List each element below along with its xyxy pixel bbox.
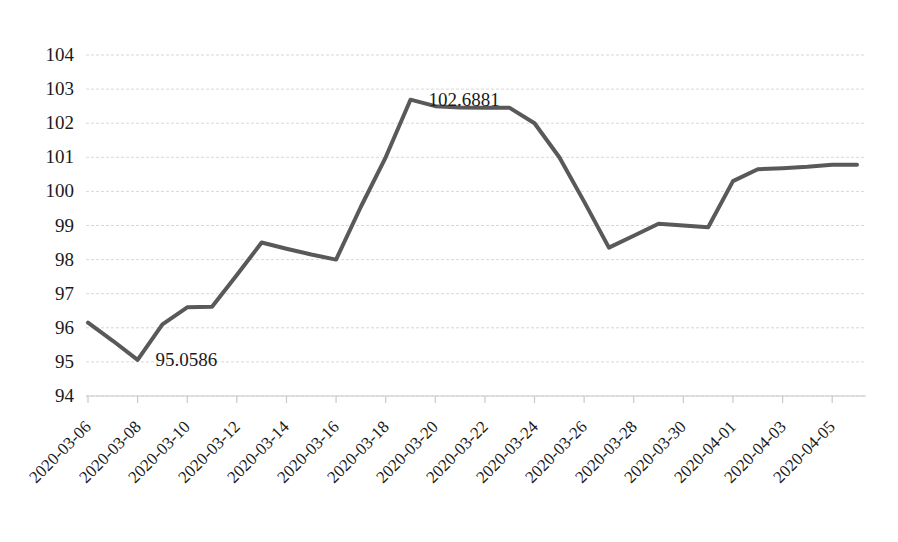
y-tick-label: 95 (22, 352, 74, 371)
data-series-line (88, 100, 857, 360)
y-tick-label: 104 (22, 45, 74, 64)
xtick-mark-group (88, 396, 832, 403)
y-tick-label: 97 (22, 284, 74, 303)
y-tick-label: 99 (22, 216, 74, 235)
y-tick-label: 96 (22, 318, 74, 337)
y-tick-label: 100 (22, 181, 74, 200)
y-tick-label: 94 (22, 386, 74, 405)
y-tick-label: 102 (22, 113, 74, 132)
y-tick-label: 101 (22, 147, 74, 166)
y-tick-label: 103 (22, 79, 74, 98)
y-tick-label: 98 (22, 250, 74, 269)
data-label: 95.0586 (156, 350, 218, 369)
chart-page: 104103102101100999897969594 2020-03-0620… (0, 0, 898, 542)
data-label: 102.6881 (428, 90, 499, 109)
